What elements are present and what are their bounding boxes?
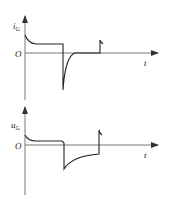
x-axis-label: t	[144, 58, 147, 68]
x-axis-label: t	[144, 150, 147, 160]
plot-gate-current: iG O t	[13, 16, 158, 100]
gate-voltage-curve	[25, 130, 102, 169]
y-axis-label: uG	[11, 120, 21, 131]
gate-current-curve	[25, 35, 103, 90]
y-axis-label: iG	[13, 21, 21, 32]
origin-label: O	[15, 49, 22, 59]
waveform-figure: iG O t uG O t	[0, 0, 171, 209]
origin-label: O	[15, 141, 22, 151]
plot-gate-voltage: uG O t	[11, 107, 158, 195]
